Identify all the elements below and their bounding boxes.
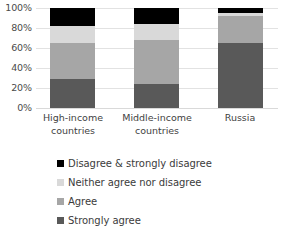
legend-label: Strongly agree	[68, 215, 141, 226]
legend-swatch-icon	[57, 198, 64, 205]
x-tick-label-middle-income: Middle-income countries	[116, 112, 198, 137]
bar-segment-agree[interactable]	[134, 40, 179, 84]
bar-group-russia	[218, 8, 263, 108]
bar-segment-agree[interactable]	[218, 16, 263, 43]
legend-swatch-icon	[57, 160, 64, 167]
bar-stack	[134, 8, 179, 108]
legend-item-agree[interactable]: Agree	[57, 192, 97, 210]
bar-group-high-income	[50, 8, 95, 108]
legend-item-strongly-agree[interactable]: Strongly agree	[57, 211, 141, 229]
bar-segment-disagree[interactable]	[50, 8, 95, 26]
bar-segment-disagree[interactable]	[134, 8, 179, 24]
x-tick-label-high-income: High-income countries	[33, 112, 113, 137]
legend-label: Neither agree nor disagree	[68, 177, 201, 188]
bar-segment-strongly-agree[interactable]	[218, 43, 263, 108]
legend-label: Disagree & strongly disagree	[68, 158, 212, 169]
bar-stack	[50, 8, 95, 108]
y-tick-label-0: 0%	[17, 103, 32, 113]
gridline-0	[36, 108, 278, 109]
bar-segment-strongly-agree[interactable]	[50, 79, 95, 108]
y-tick-label-20: 20%	[11, 83, 32, 93]
y-tick-label-60: 60%	[11, 43, 32, 53]
legend-item-disagree[interactable]: Disagree & strongly disagree	[57, 154, 212, 172]
plot-region: 100% 80% 60% 40% 20% 0%	[0, 0, 281, 150]
x-tick-label-russia: Russia	[201, 112, 279, 125]
legend-item-neither[interactable]: Neither agree nor disagree	[57, 173, 201, 191]
bars-layer	[36, 8, 278, 108]
bar-stack	[218, 8, 263, 108]
bar-segment-neither[interactable]	[134, 24, 179, 40]
y-tick-label-40: 40%	[11, 63, 32, 73]
y-axis: 100% 80% 60% 40% 20% 0%	[0, 0, 34, 150]
legend-swatch-icon	[57, 217, 64, 224]
bar-segment-neither[interactable]	[50, 26, 95, 43]
x-axis: High-income countries Middle-income coun…	[36, 112, 278, 148]
y-tick-label-100: 100%	[5, 3, 32, 13]
stacked-bar-chart: 100% 80% 60% 40% 20% 0%	[0, 0, 281, 230]
legend-swatch-icon	[57, 179, 64, 186]
bar-group-middle-income	[134, 8, 179, 108]
y-tick-label-80: 80%	[11, 23, 32, 33]
bar-segment-strongly-agree[interactable]	[134, 84, 179, 108]
plot-area	[36, 8, 278, 108]
bar-segment-agree[interactable]	[50, 43, 95, 79]
legend: Disagree & strongly disagree Neither agr…	[0, 152, 281, 230]
legend-label: Agree	[68, 196, 97, 207]
